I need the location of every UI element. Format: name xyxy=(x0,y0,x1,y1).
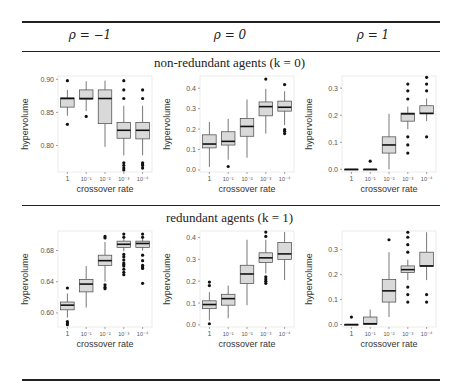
y-tick-label: 0.1 xyxy=(186,146,196,153)
x-tick-label: 10⁻¹ xyxy=(81,331,92,337)
outlier-point xyxy=(208,280,211,283)
y-tick-label: 0.3 xyxy=(186,105,196,112)
outlier-point xyxy=(122,236,125,239)
y-tick-label: 0.85 xyxy=(40,109,54,116)
boxplot-redundant-rho-0: 0.00.10.20.30.4hypervolume110⁻¹10⁻²10⁻³1… xyxy=(160,227,300,357)
x-tick-label: 1 xyxy=(207,175,211,182)
box xyxy=(420,252,434,266)
outlier-point xyxy=(122,88,125,91)
outlier-point xyxy=(122,255,125,258)
outlier-point xyxy=(103,236,106,239)
outlier-point xyxy=(141,97,144,100)
column-header-rho-neg1: ρ = −1 xyxy=(30,28,150,42)
y-tick-label: 0.0 xyxy=(186,321,196,328)
outlier-point xyxy=(425,293,428,296)
y-tick-label: 0.80 xyxy=(40,142,54,149)
outlier-point xyxy=(141,236,144,239)
x-tick-label: 10⁻² xyxy=(100,176,111,182)
x-tick-label: 1 xyxy=(349,330,353,337)
outlier-point xyxy=(141,88,144,91)
outlier-point xyxy=(406,143,409,146)
outlier-point xyxy=(264,235,267,238)
outlier-point xyxy=(122,79,125,82)
x-axis-label: crossover rate xyxy=(76,339,133,349)
outlier-point xyxy=(406,231,409,234)
x-axis-label: crossover rate xyxy=(218,184,275,194)
x-tick-label: 10⁻³ xyxy=(402,176,413,182)
outlier-point xyxy=(264,282,267,285)
x-tick-label: 10⁻³ xyxy=(260,176,271,182)
outlier-point xyxy=(283,83,286,86)
bottom-rule xyxy=(22,379,440,381)
column-header-rho-0: ρ = 0 xyxy=(170,28,290,42)
outlier-point xyxy=(66,323,69,326)
x-axis-label: crossover rate xyxy=(360,339,417,349)
outlier-point xyxy=(406,89,409,92)
x-tick-label: 10⁻⁴ xyxy=(137,176,149,182)
outlier-point xyxy=(122,233,125,236)
boxplot-redundant-rho-1: 0.00.10.20.3hypervolume110⁻¹10⁻²10⁻³10⁻⁴… xyxy=(302,227,442,357)
x-tick-label: 10⁻³ xyxy=(260,331,271,337)
y-tick-label: 0.64 xyxy=(40,278,54,285)
outlier-point xyxy=(122,265,125,268)
box xyxy=(221,294,235,305)
outlier-point xyxy=(406,83,409,86)
outlier-point xyxy=(406,97,409,100)
outlier-point xyxy=(406,243,409,246)
x-tick-label: 10⁻³ xyxy=(118,331,129,337)
x-tick-label: 1 xyxy=(349,175,353,182)
box xyxy=(98,90,112,124)
x-tick-label: 10⁻¹ xyxy=(365,331,376,337)
outlier-point xyxy=(406,300,409,303)
outlier-point xyxy=(425,76,428,79)
outlier-point xyxy=(141,254,144,257)
boxplot-nonredundant-rho-0: 0.00.10.20.30.4hypervolume110⁻¹10⁻²10⁻³1… xyxy=(160,72,300,202)
x-tick-label: 10⁻⁴ xyxy=(137,331,149,337)
column-header-rho-1: ρ = 1 xyxy=(313,28,433,42)
outlier-point xyxy=(350,315,353,318)
outlier-point xyxy=(406,286,409,289)
section-title-non-redundant: non-redundant agents (k = 0) xyxy=(0,55,459,71)
outlier-point xyxy=(85,115,88,118)
y-tick-label: 0.3 xyxy=(328,246,338,253)
x-tick-label: 10⁻⁴ xyxy=(279,176,291,182)
outlier-point xyxy=(66,123,69,126)
box xyxy=(240,118,254,136)
boxplot-nonredundant-rho-1: 0.00.10.20.3hypervolume110⁻¹10⁻²10⁻³10⁻⁴… xyxy=(302,72,442,202)
x-tick-label: 10⁻¹ xyxy=(81,176,92,182)
y-tick-label: 0.4 xyxy=(186,234,196,241)
section-title-redundant: redundant agents (k = 1) xyxy=(0,210,459,226)
outlier-point xyxy=(66,286,69,289)
y-axis-label: hypervolume xyxy=(304,253,314,305)
outlier-point xyxy=(406,293,409,296)
x-axis-label: crossover rate xyxy=(76,184,133,194)
x-tick-label: 10⁻² xyxy=(100,331,111,337)
y-tick-label: 0.1 xyxy=(186,300,196,307)
outlier-point xyxy=(369,160,372,163)
x-tick-label: 10⁻¹ xyxy=(365,176,376,182)
outlier-point xyxy=(264,230,267,233)
x-tick-label: 1 xyxy=(207,330,211,337)
x-tick-label: 10⁻³ xyxy=(118,176,129,182)
outlier-point xyxy=(141,166,144,169)
x-tick-label: 10⁻⁴ xyxy=(421,331,433,337)
x-tick-label: 10⁻² xyxy=(384,331,395,337)
x-tick-label: 10⁻¹ xyxy=(223,331,234,337)
x-tick-label: 10⁻² xyxy=(242,331,253,337)
y-axis-label: hypervolume xyxy=(304,98,314,150)
y-tick-label: 0.60 xyxy=(40,309,54,316)
y-axis-label: hypervolume xyxy=(20,98,30,150)
y-tick-label: 0.1 xyxy=(328,296,338,303)
x-tick-label: 10⁻² xyxy=(384,176,395,182)
outlier-point xyxy=(122,168,125,171)
y-axis-label: hypervolume xyxy=(162,253,172,305)
y-tick-label: 0.0 xyxy=(328,321,338,328)
y-axis-label: hypervolume xyxy=(20,253,30,305)
y-tick-label: 0.4 xyxy=(186,85,196,92)
outlier-point xyxy=(425,83,428,86)
outlier-point xyxy=(122,273,125,276)
outlier-point xyxy=(227,165,230,168)
y-tick-label: 0.90 xyxy=(40,76,54,83)
outlier-point xyxy=(103,287,106,290)
x-tick-label: 10⁻⁴ xyxy=(279,331,291,337)
